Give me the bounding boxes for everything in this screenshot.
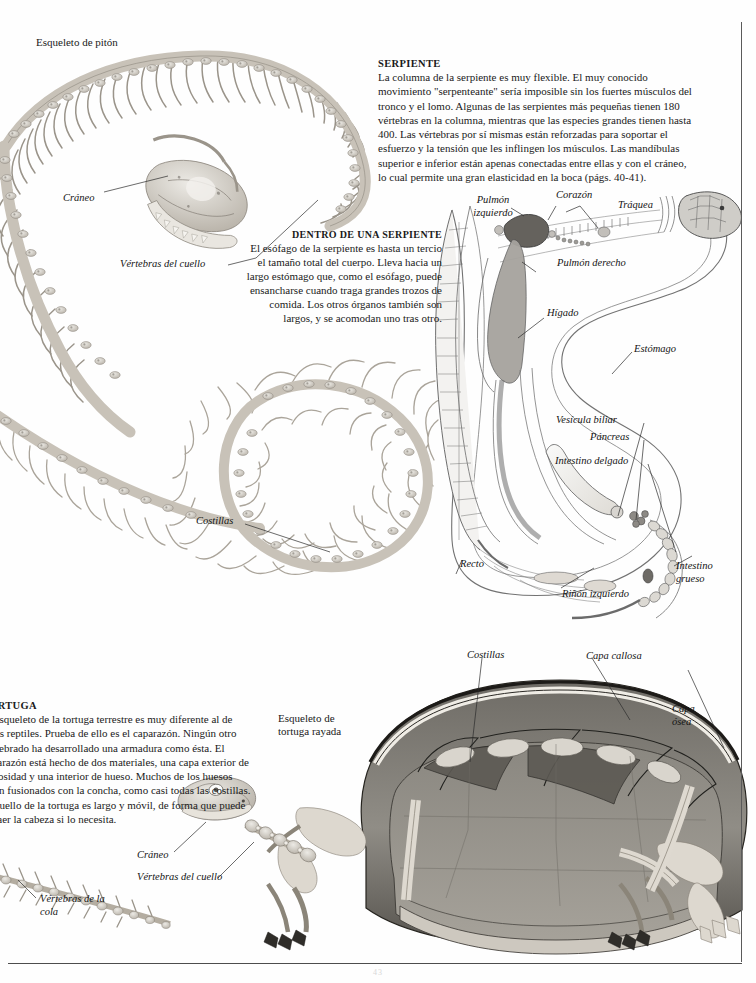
label-stomach: Estómago: [634, 343, 676, 356]
label-large-intestine: Intestino grueso: [676, 560, 726, 585]
caption-tortoise-skeleton: Esqueleto de tortuga rayada: [278, 712, 348, 739]
page-number: 43: [0, 968, 756, 977]
label-python-ribs: Costillas: [196, 515, 233, 528]
label-rectum: Recto: [460, 558, 484, 571]
label-bony-layer: Capa ósea: [672, 703, 712, 728]
label-pancreas: Páncreas: [590, 431, 629, 444]
text-block-tortuga: TORTUGA El esqueleto de la tortuga terre…: [0, 700, 254, 826]
label-liver: Hígado: [547, 307, 579, 320]
label-horny-layer: Capa callosa: [586, 650, 642, 663]
label-right-lung: Pulmón derecho: [557, 257, 626, 270]
text-block-serpiente: SERPIENTE La columna de la serpiente es …: [378, 58, 696, 184]
page-border-right: [741, 22, 742, 962]
label-tortoise-ribs: Costillas: [467, 649, 504, 662]
label-python-skull: Cráneo: [63, 192, 95, 205]
heading-dentro-de-una-serpiente: DENTRO DE UNA SERPIENTE: [246, 229, 442, 240]
text-block-dentro-de-una-serpiente: DENTRO DE UNA SERPIENTE El esófago de la…: [246, 229, 442, 325]
heading-tortuga: TORTUGA: [0, 700, 254, 711]
body-serpiente: La columna de la serpiente es muy flexib…: [378, 70, 696, 184]
label-tortoise-neck-vertebrae: Vértebras del cuello: [137, 871, 222, 884]
label-tortoise-skull: Cráneo: [137, 849, 169, 862]
label-trachea: Tráquea: [618, 199, 653, 212]
label-python-neck-vertebrae: Vértebras del cuello: [120, 258, 205, 271]
label-gall-bladder: Vesícula biliar: [556, 414, 617, 427]
heading-serpiente: SERPIENTE: [378, 58, 696, 69]
label-tail-vertebrae: Vértebras de la cola: [40, 893, 112, 918]
label-left-kidney: Riñón izquierdo: [562, 588, 629, 601]
caption-python-skeleton: Esqueleto de pitón: [36, 36, 118, 49]
label-heart: Corazón: [556, 189, 592, 202]
page-border-bottom: [8, 963, 742, 964]
book-page: Esqueleto de pitón Esqueleto de tortuga …: [0, 0, 756, 983]
label-small-intestine: Intestino delgado: [555, 455, 628, 468]
body-tortuga: El esqueleto de la tortuga terrestre es …: [0, 712, 254, 826]
label-left-lung: Pulmón izquierdo: [464, 194, 522, 219]
body-dentro-de-una-serpiente: El esófago de la serpiente es hasta un t…: [246, 241, 442, 325]
